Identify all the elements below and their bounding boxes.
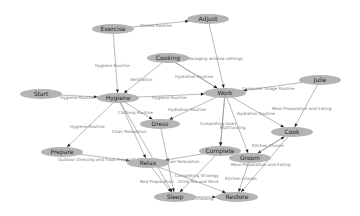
node-groom[interactable]: Groom: [229, 153, 271, 163]
node-cook[interactable]: Cook: [271, 127, 313, 137]
edge-label: Drink Tea and Work: [178, 179, 219, 184]
diagram-canvas: Fitness RoutineHygiene RoutineVentilatio…: [0, 0, 360, 216]
node-exercise[interactable]: Exercise: [92, 24, 134, 34]
arrowhead-icon: [281, 137, 285, 140]
edge-label: Fitness Routine: [140, 23, 172, 28]
node-restore[interactable]: Restore: [216, 192, 258, 202]
node-label: Prepare: [50, 148, 73, 156]
node-label: Exercise: [101, 25, 126, 32]
edge-label: Hydration Routine: [168, 107, 206, 112]
node-label: Adjust: [199, 15, 218, 23]
edge-label: Kitchen Chores: [252, 143, 284, 148]
node-hygiene[interactable]: Hygiene: [97, 93, 139, 103]
node-label: Cook: [284, 128, 300, 135]
edge-label: Bed Preparation: [140, 179, 174, 184]
edge-label: Ventilation: [130, 77, 153, 82]
edge-label: Kitchen Chores: [225, 176, 257, 181]
node-label: Cooking: [156, 54, 180, 62]
edge-label: Hygiene Routine: [70, 124, 105, 129]
node-relax[interactable]: Relax: [127, 158, 169, 168]
arrowhead-icon: [172, 188, 175, 192]
edge-label: Hygiene Routine: [60, 95, 95, 100]
node-sleep[interactable]: Sleep: [154, 192, 196, 202]
edge-label: Hygiene Routine: [95, 63, 130, 68]
node-complete[interactable]: Complete: [199, 146, 241, 156]
node-label: Start: [34, 90, 49, 97]
arrowhead-icon: [116, 89, 119, 93]
edge-label: Managing window settings: [187, 56, 243, 61]
edge-labels-layer: Fitness RoutineHygiene RoutineVentilatio…: [58, 23, 332, 201]
node-work[interactable]: Work: [204, 88, 246, 98]
edge-label: Completing Strategy: [175, 173, 219, 178]
edge-label: Chair Relaxation: [165, 159, 200, 164]
edge-label: Computer Usage Routine: [242, 86, 295, 91]
node-label: Julie: [313, 76, 327, 84]
node-start[interactable]: Start: [20, 89, 62, 99]
node-adjust[interactable]: Adjust: [187, 14, 229, 24]
arrowhead-icon: [149, 116, 153, 119]
arrowhead-icon: [245, 149, 248, 153]
edge-label: Hydration Routine: [237, 111, 275, 116]
node-label: Work: [217, 89, 233, 96]
edge-label: Chair Relaxation: [112, 129, 147, 134]
arrowhead-icon: [238, 188, 241, 192]
edge-label: Hygiene Routine: [152, 95, 187, 100]
node-cooking[interactable]: Cooking: [147, 53, 189, 63]
arrowhead-icon: [214, 85, 218, 88]
edge-label: Clothing Routine: [118, 110, 153, 115]
node-prepare[interactable]: Prepare: [41, 147, 83, 157]
node-label: Sleep: [167, 193, 184, 201]
node-dress[interactable]: Dress: [140, 119, 180, 129]
node-label: Hygiene: [106, 94, 131, 102]
edge-label: Hydration Routine: [175, 74, 213, 79]
node-label: Complete: [206, 147, 235, 155]
edge-label: Multitasking: [220, 125, 246, 130]
arrowhead-icon: [222, 84, 225, 88]
arrowhead-icon: [201, 93, 205, 96]
node-label: Relax: [140, 159, 157, 166]
node-label: Groom: [240, 154, 260, 161]
node-label: Dress: [152, 120, 169, 127]
edge-label: Meal Preparation and Eating: [231, 162, 291, 167]
node-label: Restore: [226, 193, 249, 200]
edge-label: Meal Preparation and Eating: [272, 106, 332, 111]
node-julie[interactable]: Julie: [299, 75, 341, 85]
